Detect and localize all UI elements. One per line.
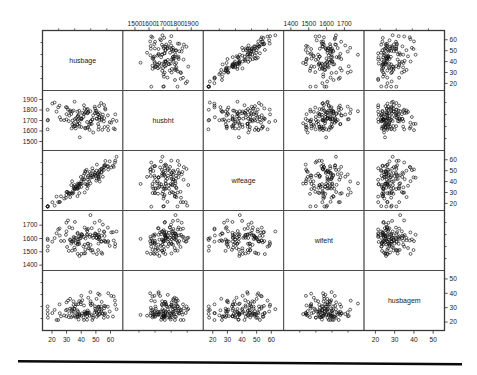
scatter-panel-wifeht-vs-husbht	[284, 91, 364, 151]
scatter-panel-husbagem-vs-wifeage	[364, 151, 444, 211]
tick-label: 40	[78, 336, 86, 343]
scatter-panel-husbagem-vs-husbht	[364, 91, 444, 151]
panel-border	[284, 31, 364, 91]
diagonal-panel-husbht: husbht	[123, 91, 203, 151]
tick-label: 20	[450, 80, 458, 87]
tick-label: 1800	[170, 20, 185, 27]
scatter-panel-husbage-vs-wifeage	[43, 151, 123, 211]
scatter-panel-husbagem-vs-husbage	[364, 31, 444, 91]
tick-label: 30	[224, 336, 232, 343]
panel-border	[364, 31, 444, 91]
tick-label: 1700	[337, 20, 352, 27]
scatter-panel-wifeage-vs-husbagem	[203, 271, 283, 331]
tick-label: 30	[63, 336, 71, 343]
tick-label: 20	[450, 200, 458, 207]
tick-label: 40	[450, 290, 458, 297]
scatter-panel-husbage-vs-husbht	[43, 91, 123, 151]
variable-label: wifeht	[314, 237, 333, 244]
tick-label: 1500	[128, 20, 143, 27]
tick-label: 1800	[23, 106, 38, 113]
tick-label: 1500	[301, 20, 316, 27]
tick-label: 20	[450, 318, 458, 325]
tick-label: 30	[450, 304, 458, 311]
variable-label: wifeage	[230, 177, 255, 185]
scatter-panel-wifeage-vs-husbht	[203, 91, 283, 151]
tick-label: 1400	[23, 261, 38, 268]
tick-label: 60	[450, 36, 458, 43]
scatter-panel-husbht-vs-husbage	[123, 31, 203, 91]
tick-label: 40	[450, 58, 458, 65]
variable-label: husbagem	[388, 297, 421, 305]
scatter-panel-husbht-vs-husbagem	[123, 271, 203, 331]
scatterplot-matrix: husbagehusbhtwifeagewifehthusbagem150016…	[0, 0, 477, 375]
tick-label: 50	[92, 336, 100, 343]
tick-label: 20	[372, 336, 380, 343]
tick-label: 50	[430, 336, 438, 343]
tick-label: 1700	[23, 221, 38, 228]
tick-label: 50	[253, 336, 261, 343]
panel-border	[203, 91, 283, 151]
tick-label: 1400	[284, 20, 299, 27]
scatter-panel-husbage-vs-wifeht	[43, 211, 123, 271]
diagonal-panel-wifeht: wifeht	[284, 211, 364, 271]
diagonal-panel-husbagem: husbagem	[364, 271, 444, 331]
scatter-panel-wifeht-vs-wifeage	[284, 151, 364, 211]
tick-label: 1600	[23, 127, 38, 134]
scatter-panel-wifeht-vs-husbagem	[284, 271, 364, 331]
tick-label: 60	[268, 336, 276, 343]
tick-label: 50	[450, 275, 458, 282]
tick-label: 50	[450, 47, 458, 54]
scatter-panel-wifeage-vs-wifeht	[203, 211, 283, 271]
tick-label: 20	[209, 336, 217, 343]
tick-label: 40	[238, 336, 246, 343]
tick-label: 30	[391, 336, 399, 343]
tick-label: 1500	[23, 138, 38, 145]
scatter-panel-husbht-vs-wifeht	[123, 211, 203, 271]
scatter-panel-husbagem-vs-wifeht	[364, 211, 444, 271]
scatter-panel-husbage-vs-husbagem	[43, 271, 123, 331]
variable-label: husbht	[153, 117, 174, 124]
diagonal-panel-husbage: husbage	[43, 31, 123, 91]
scatter-panel-husbht-vs-wifeage	[123, 151, 203, 211]
tick-label: 1500	[23, 248, 38, 255]
tick-label: 1600	[23, 235, 38, 242]
scatter-panel-wifeht-vs-husbage	[284, 31, 364, 91]
tick-label: 1700	[23, 117, 38, 124]
tick-label: 1900	[23, 96, 38, 103]
tick-label: 1700	[156, 20, 171, 27]
tick-label: 1600	[142, 20, 157, 27]
tick-label: 30	[450, 69, 458, 76]
panel-border	[43, 211, 123, 271]
tick-label: 60	[107, 336, 115, 343]
tick-label: 1600	[319, 20, 334, 27]
variable-label: husbage	[69, 57, 96, 65]
diagonal-panel-wifeage: wifeage	[203, 151, 283, 211]
tick-label: 40	[410, 336, 418, 343]
scatter-panel-wifeage-vs-husbage	[203, 31, 283, 91]
tick-label: 40	[450, 178, 458, 185]
tick-label: 60	[450, 156, 458, 163]
splom-figure: husbagehusbhtwifeagewifehthusbagem150016…	[0, 0, 477, 375]
tick-label: 50	[450, 167, 458, 174]
panel-border	[123, 151, 203, 211]
panel-border	[43, 271, 123, 331]
tick-label: 1900	[184, 20, 199, 27]
tick-label: 30	[450, 189, 458, 196]
tick-label: 20	[48, 336, 56, 343]
